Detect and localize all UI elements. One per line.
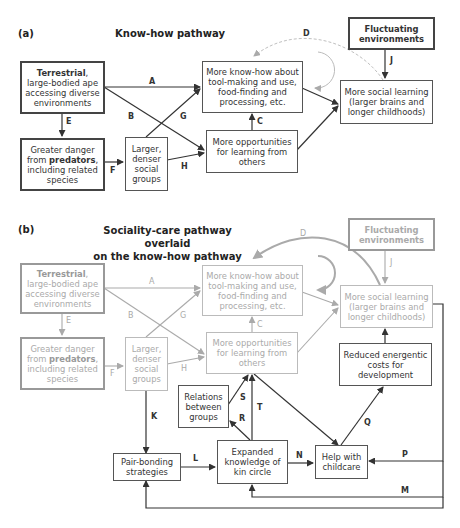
edge-label-j: J bbox=[390, 56, 393, 65]
predators-b-bold: predators bbox=[49, 354, 95, 364]
node-relations: Relations between groups bbox=[178, 385, 229, 428]
terrestrial-bold: Terrestrial bbox=[37, 68, 86, 78]
edge-label-r: R bbox=[239, 414, 245, 423]
edge-label-h-b: H bbox=[181, 364, 187, 373]
edge-label-f-b: F bbox=[110, 369, 115, 378]
edge-social-pairbond bbox=[146, 481, 443, 508]
edge-label-l: L bbox=[193, 454, 198, 463]
edge-label-t: T bbox=[257, 403, 262, 412]
edge-h bbox=[167, 153, 204, 160]
edge-label-b: B bbox=[128, 112, 134, 121]
node-pair-bonding: Pair-bonding strategies bbox=[113, 453, 181, 481]
panel-a-title: Know-how pathway bbox=[110, 27, 230, 40]
node-social-groups: Larger, denser social groups bbox=[125, 137, 168, 191]
node-social-learning: More social learning (larger brains and … bbox=[340, 80, 433, 124]
panel-b-title-line2: on the know-how pathway bbox=[80, 250, 255, 263]
edge-r bbox=[230, 421, 250, 440]
edge-label-n: N bbox=[296, 451, 303, 460]
edge-label-c: C bbox=[257, 117, 263, 126]
edge-label-k: K bbox=[151, 412, 157, 421]
node-social-learning-b: More social learning (larger brains and … bbox=[340, 285, 433, 328]
edge-label-j-b: J bbox=[390, 258, 392, 267]
node-kin-circle: Expanded knowledge of kin circle bbox=[217, 440, 288, 484]
edge-label-b-b: B bbox=[128, 311, 134, 320]
edge-label-d: D bbox=[303, 29, 310, 38]
node-fluctuating: Fluctuating environments bbox=[348, 17, 435, 50]
edge-label-e-b: E bbox=[66, 316, 71, 325]
node-know-how: More know-how about tool-making and use,… bbox=[202, 61, 303, 113]
edge-label-g-b: G bbox=[180, 311, 186, 320]
terrestrial-b-bold: Terrestrial bbox=[37, 269, 86, 279]
node-social-groups-b: Larger, denser social groups bbox=[125, 337, 168, 391]
edge-label-d-b: D bbox=[300, 229, 306, 238]
edge-label-s: S bbox=[240, 393, 246, 402]
node-know-how-b: More know-how about tool-making and use,… bbox=[202, 265, 303, 316]
edge-label-c-b: C bbox=[257, 320, 263, 329]
self-loop-arrow-b bbox=[318, 256, 335, 290]
edge-q bbox=[341, 387, 383, 445]
node-opportunities: More opportunities for learning from oth… bbox=[206, 130, 298, 173]
edge-label-p: P bbox=[402, 450, 408, 459]
predators-bold: predators bbox=[49, 155, 95, 165]
edge-opp-social bbox=[297, 106, 338, 150]
edge-opp-childcare bbox=[254, 374, 338, 445]
node-opportunities-b: More opportunities for learning from oth… bbox=[206, 332, 298, 374]
node-terrestrial: Terrestrial, large-bodied ape accessing … bbox=[20, 61, 105, 114]
node-predators-b: Greater danger from predators, including… bbox=[20, 337, 105, 390]
edge-label-a-b: A bbox=[149, 277, 154, 286]
panel-b-title: Sociality-care pathway overlaid on the k… bbox=[80, 224, 255, 263]
node-terrestrial-b: Terrestrial, large-bodied ape accessing … bbox=[20, 263, 105, 314]
self-loop-arrow bbox=[315, 52, 335, 88]
node-reduced-costs: Reduced energentic costs for development bbox=[339, 343, 432, 386]
edge-label-h: H bbox=[181, 162, 188, 171]
edge-label-m: M bbox=[401, 486, 409, 495]
node-predators: Greater danger from predators, including… bbox=[20, 138, 105, 191]
edge-knowhow-social bbox=[302, 88, 338, 104]
panel-b-title-line1: Sociality-care pathway overlaid bbox=[80, 224, 255, 250]
edge-label-f: F bbox=[110, 166, 115, 175]
edge-label-a: A bbox=[149, 77, 155, 86]
panel-a-label: (a) bbox=[18, 28, 34, 39]
panel-b-label: (b) bbox=[18, 224, 34, 235]
edge-label-g: G bbox=[180, 112, 187, 121]
node-childcare: Help with childcare bbox=[315, 445, 368, 479]
edge-label-q: Q bbox=[364, 418, 371, 427]
edge-label-e: E bbox=[66, 117, 71, 126]
node-fluctuating-b: Fluctuating environments bbox=[348, 218, 435, 251]
